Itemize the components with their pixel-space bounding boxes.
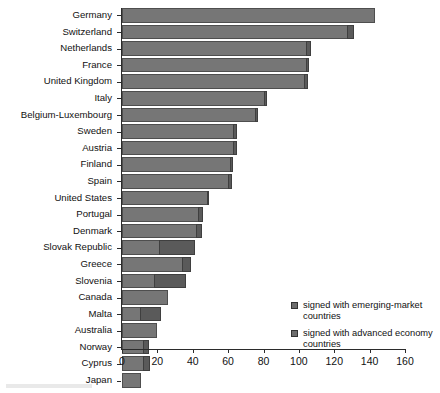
x-axis-tick-label: 60 bbox=[222, 355, 234, 367]
bar-segment-advanced bbox=[122, 340, 143, 355]
bar-segment-advanced bbox=[122, 108, 255, 123]
stacked-bar bbox=[122, 373, 141, 388]
bar-segment-advanced bbox=[122, 307, 140, 322]
bar-segment-advanced bbox=[122, 174, 228, 189]
y-axis-label: Finland bbox=[0, 157, 116, 172]
bar-row bbox=[122, 207, 405, 222]
x-axis-tick bbox=[157, 349, 158, 353]
bar-segment-advanced bbox=[122, 290, 168, 305]
bar-segment-advanced bbox=[122, 240, 159, 255]
bar-segment-emerging bbox=[347, 25, 354, 40]
stacked-bar bbox=[122, 58, 309, 73]
x-axis-tick bbox=[122, 349, 123, 353]
stacked-bar bbox=[122, 174, 232, 189]
x-axis-tick-label: 0 bbox=[119, 355, 125, 367]
bar-segment-emerging bbox=[140, 307, 161, 322]
bar-segment-emerging bbox=[264, 91, 268, 106]
bar-row bbox=[122, 25, 405, 40]
bar-segment-advanced bbox=[122, 356, 143, 371]
bar-segment-emerging bbox=[196, 224, 201, 239]
bar-segment-emerging bbox=[159, 240, 194, 255]
stacked-bar bbox=[122, 274, 186, 289]
bar-segment-advanced bbox=[122, 58, 306, 73]
x-axis-tick-label: 140 bbox=[361, 355, 379, 367]
emerging-swatch-icon bbox=[291, 302, 298, 309]
y-axis-label: Sweden bbox=[0, 124, 116, 139]
legend-item-emerging: signed with emerging-market countries bbox=[291, 300, 436, 323]
y-axis-category-labels: GermanySwitzerlandNetherlandsFranceUnite… bbox=[0, 8, 116, 347]
bar-segment-emerging bbox=[228, 174, 232, 189]
bar-segment-emerging bbox=[143, 340, 148, 355]
bar-segment-advanced bbox=[122, 274, 154, 289]
bar-segment-advanced bbox=[122, 25, 347, 40]
y-axis-tick bbox=[117, 314, 121, 315]
bar-segment-emerging bbox=[154, 274, 186, 289]
bar-segment-advanced bbox=[122, 373, 141, 388]
x-axis-tick-label: 80 bbox=[258, 355, 270, 367]
stacked-bar bbox=[122, 191, 209, 206]
bar-row bbox=[122, 141, 405, 156]
stacked-bar bbox=[122, 323, 157, 338]
bar-row bbox=[122, 373, 405, 388]
y-axis-tick bbox=[117, 298, 121, 299]
y-axis-tick bbox=[117, 115, 121, 116]
bar-row bbox=[122, 74, 405, 89]
chart-legend: signed with emerging-market countries si… bbox=[291, 300, 436, 356]
stacked-bar bbox=[122, 124, 237, 139]
y-axis-label: Norway bbox=[0, 340, 116, 355]
y-axis-tick bbox=[117, 248, 121, 249]
legend-item-advanced: signed with advanced economy countries bbox=[291, 328, 436, 351]
y-axis-tick bbox=[117, 381, 121, 382]
y-axis-tick bbox=[117, 65, 121, 66]
y-axis-label: France bbox=[0, 58, 116, 73]
bar-segment-advanced bbox=[122, 257, 182, 272]
stacked-bar bbox=[122, 8, 375, 23]
bar-row bbox=[122, 41, 405, 56]
bar-row bbox=[122, 274, 405, 289]
stacked-bar bbox=[122, 207, 203, 222]
bar-segment-emerging bbox=[143, 356, 150, 371]
y-axis-tick bbox=[117, 82, 121, 83]
y-axis-tick bbox=[117, 215, 121, 216]
y-axis-label: Germany bbox=[0, 8, 116, 23]
x-axis-tick bbox=[264, 349, 265, 353]
bar-row bbox=[122, 58, 405, 73]
y-axis-label: Belgium-Luxembourg bbox=[0, 108, 116, 123]
y-axis-tick bbox=[117, 181, 121, 182]
bar-row bbox=[122, 124, 405, 139]
bar-segment-advanced bbox=[122, 8, 375, 23]
bar-rows bbox=[122, 8, 405, 347]
legend-label-advanced: signed with advanced economy countries bbox=[303, 328, 436, 351]
bar-row bbox=[122, 8, 405, 23]
bar-segment-emerging bbox=[304, 74, 308, 89]
bar-row bbox=[122, 257, 405, 272]
bar-segment-advanced bbox=[122, 157, 230, 172]
stacked-bar bbox=[122, 257, 191, 272]
y-axis-label: Switzerland bbox=[0, 25, 116, 40]
y-axis-tick bbox=[117, 15, 121, 16]
y-axis-tick bbox=[117, 331, 121, 332]
stacked-bar bbox=[122, 307, 161, 322]
bar-row bbox=[122, 108, 405, 123]
bar-row bbox=[122, 240, 405, 255]
bar-segment-advanced bbox=[122, 224, 196, 239]
y-axis-label: Cyprus bbox=[0, 356, 116, 371]
stacked-bar bbox=[122, 91, 267, 106]
bar-segment-emerging bbox=[230, 157, 234, 172]
stacked-bar bbox=[122, 240, 195, 255]
y-axis-label: Australia bbox=[0, 323, 116, 338]
bar-segment-advanced bbox=[122, 91, 264, 106]
bar-segment-emerging bbox=[182, 257, 191, 272]
bar-segment-emerging bbox=[233, 124, 237, 139]
bar-segment-emerging bbox=[198, 207, 203, 222]
stacked-bar bbox=[122, 224, 202, 239]
x-axis-tick-label: 20 bbox=[152, 355, 164, 367]
bar-segment-advanced bbox=[122, 207, 198, 222]
bar-segment-advanced bbox=[122, 323, 157, 338]
stacked-bar bbox=[122, 356, 150, 371]
y-axis-label: United Kingdom bbox=[0, 74, 116, 89]
stacked-bar bbox=[122, 25, 354, 40]
y-axis-tick bbox=[117, 264, 121, 265]
bar-segment-emerging bbox=[255, 108, 259, 123]
y-axis-label: Austria bbox=[0, 141, 116, 156]
